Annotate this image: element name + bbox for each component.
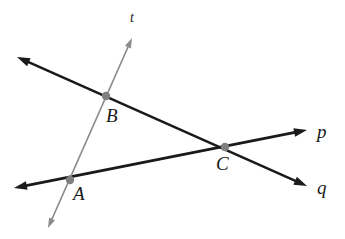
line-label-q: q	[317, 178, 327, 197]
line-q-arrowhead-end	[293, 177, 307, 186]
line-p-arrowhead-end	[293, 128, 307, 137]
line-t	[48, 38, 132, 228]
line-t-arrowhead-start	[125, 38, 132, 48]
intersection-points	[66, 92, 229, 184]
line-label-t: t	[130, 11, 134, 25]
point-label-A: A	[73, 184, 85, 203]
line-p	[14, 128, 307, 190]
line-label-p: p	[317, 122, 327, 141]
line-q-arrowhead-start	[17, 57, 31, 66]
point-label-C: C	[216, 154, 229, 173]
line-q-segment	[24, 60, 301, 183]
geometry-diagram: A B C p q t	[0, 0, 345, 239]
point-dot-B	[102, 92, 110, 100]
line-q	[17, 57, 307, 186]
geometry-canvas	[0, 0, 345, 239]
point-dot-C	[221, 143, 229, 151]
line-p-arrowhead-start	[14, 181, 28, 190]
line-t-arrowhead-end	[48, 218, 55, 228]
point-label-B: B	[106, 106, 118, 125]
line-p-segment	[21, 131, 300, 186]
line-t-segment	[50, 43, 130, 223]
